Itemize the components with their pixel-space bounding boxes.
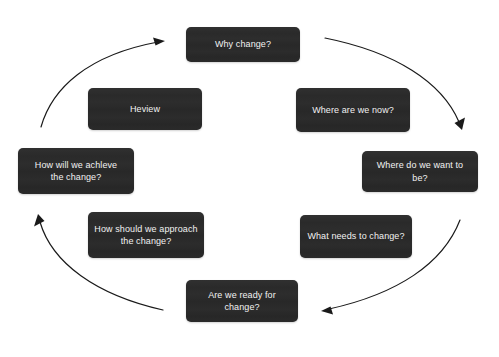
stage-box-where-do-we-want-to-be[interactable]: Where do we want to be? <box>362 151 478 192</box>
stage-box-why-change[interactable]: Why change? <box>186 27 300 62</box>
stage-label-what-needs-to-change: What needs to change? <box>306 230 406 243</box>
stage-box-review[interactable]: Heview <box>88 88 202 130</box>
stage-box-how-should-we-approach-the-change[interactable]: How should we approach the change? <box>88 212 204 258</box>
stage-label-how-will-we-achieve-the-change: How will we achleve the change? <box>24 159 128 184</box>
stage-box-where-are-we-now[interactable]: Where are we now? <box>296 88 410 132</box>
change-cycle-diagram: Why change? Where are we now? Where do w… <box>0 0 499 357</box>
stage-label-where-do-we-want-to-be: Where do we want to be? <box>368 159 472 184</box>
stage-label-are-we-ready-for-change: Are we ready for change? <box>192 289 292 314</box>
stage-label-where-are-we-now: Where are we now? <box>302 104 404 117</box>
stage-box-are-we-ready-for-change[interactable]: Are we ready for change? <box>186 280 298 322</box>
stage-box-what-needs-to-change[interactable]: What needs to change? <box>300 215 412 258</box>
stage-label-how-should-we-approach-the-change: How should we approach the change? <box>94 223 198 248</box>
stage-label-why-change: Why change? <box>192 38 294 51</box>
stage-label-review: Heview <box>94 103 196 116</box>
stage-box-how-will-we-achieve-the-change[interactable]: How will we achleve the change? <box>18 148 134 194</box>
